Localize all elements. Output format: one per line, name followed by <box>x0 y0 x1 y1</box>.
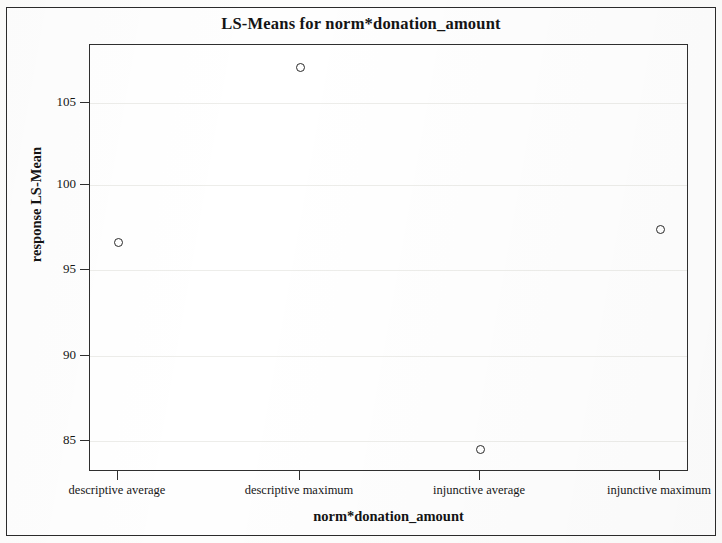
gridline-105 <box>90 103 687 104</box>
data-point-injunctive-average <box>476 445 485 454</box>
x-axis-title: norm*donation_amount <box>89 508 688 525</box>
x-tick-mark-descriptive-average <box>117 471 118 480</box>
x-tick-mark-injunctive-maximum <box>659 471 660 480</box>
data-point-descriptive-average <box>114 238 123 247</box>
data-point-descriptive-maximum <box>296 63 305 72</box>
gridline-85 <box>90 441 687 442</box>
x-tick-mark-injunctive-average <box>479 471 480 480</box>
x-tick-label-descriptive-average: descriptive average <box>22 483 212 498</box>
y-tick-mark-105 <box>80 102 89 103</box>
x-tick-label-injunctive-average: injunctive average <box>384 483 574 498</box>
y-tick-label-85: 85 <box>32 432 76 448</box>
gridline-90 <box>90 356 687 357</box>
data-point-injunctive-maximum <box>656 225 665 234</box>
x-tick-label-injunctive-maximum: injunctive maximum <box>564 483 722 498</box>
x-tick-label-descriptive-maximum: descriptive maximum <box>204 483 394 498</box>
y-tick-label-90: 90 <box>32 347 76 363</box>
chart-title: LS-Means for norm*donation_amount <box>0 14 722 34</box>
x-tick-mark-descriptive-maximum <box>299 471 300 480</box>
y-tick-mark-90 <box>80 355 89 356</box>
plot-area <box>89 44 688 471</box>
gridline-100 <box>90 185 687 186</box>
chart-page: LS-Means for norm*donation_amount 105 10… <box>0 0 722 543</box>
y-axis-title: response LS-Mean <box>28 105 45 305</box>
gridline-95 <box>90 270 687 271</box>
y-tick-mark-100 <box>80 184 89 185</box>
y-tick-mark-95 <box>80 269 89 270</box>
y-tick-mark-85 <box>80 440 89 441</box>
